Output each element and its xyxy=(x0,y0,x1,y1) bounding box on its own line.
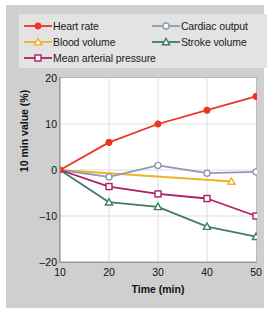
legend-item-blood-volume[interactable]: Blood volume xyxy=(23,35,151,49)
legend-item-mean-arterial-pressure[interactable]: Mean arterial pressure xyxy=(23,51,153,65)
circle-filled-icon xyxy=(23,19,53,33)
legend-item-stroke-volume[interactable]: Stroke volume xyxy=(151,35,265,49)
plot-area xyxy=(59,77,257,263)
x-tick-label: 50 xyxy=(239,266,270,278)
legend-item-cardiac-output[interactable]: Cardiac output xyxy=(151,19,265,33)
legend-row: Heart rateCardiac output xyxy=(23,18,265,34)
x-tick-label: 40 xyxy=(190,266,224,278)
legend-item-heart-rate[interactable]: Heart rate xyxy=(23,19,151,33)
chart-legend: Heart rateCardiac outputBlood volumeStro… xyxy=(19,14,267,68)
legend-label: Cardiac output xyxy=(181,20,248,32)
circle-open-icon xyxy=(151,19,181,33)
legend-row: Blood volumeStroke volume xyxy=(23,34,265,50)
triangle-open-icon xyxy=(151,35,181,49)
x-tick-label: 20 xyxy=(92,266,126,278)
y-axis-ticks: 20100–10–20 xyxy=(27,77,57,263)
square-open-icon xyxy=(23,51,53,65)
legend-row: Mean arterial pressure xyxy=(23,50,265,66)
x-axis-ticks: 1020304050 xyxy=(59,266,257,280)
y-tick-label: 0 xyxy=(31,164,57,176)
legend-label: Heart rate xyxy=(53,20,99,32)
x-tick-label: 10 xyxy=(43,266,77,278)
legend-label: Mean arterial pressure xyxy=(53,52,156,64)
plot-series-layer xyxy=(59,77,257,263)
y-tick-label: 20 xyxy=(31,72,57,84)
legend-label: Blood volume xyxy=(53,36,115,48)
triangle-open-icon xyxy=(23,35,53,49)
x-axis-label: Time (min) xyxy=(59,283,257,295)
x-tick-label: 30 xyxy=(141,266,175,278)
y-tick-label: –10 xyxy=(31,210,57,222)
legend-label: Stroke volume xyxy=(181,36,247,48)
y-tick-label: 10 xyxy=(31,118,57,130)
chart-figure: Heart rateCardiac outputBlood volumeStro… xyxy=(0,0,270,314)
figure-canvas: Heart rateCardiac outputBlood volumeStro… xyxy=(6,5,264,308)
